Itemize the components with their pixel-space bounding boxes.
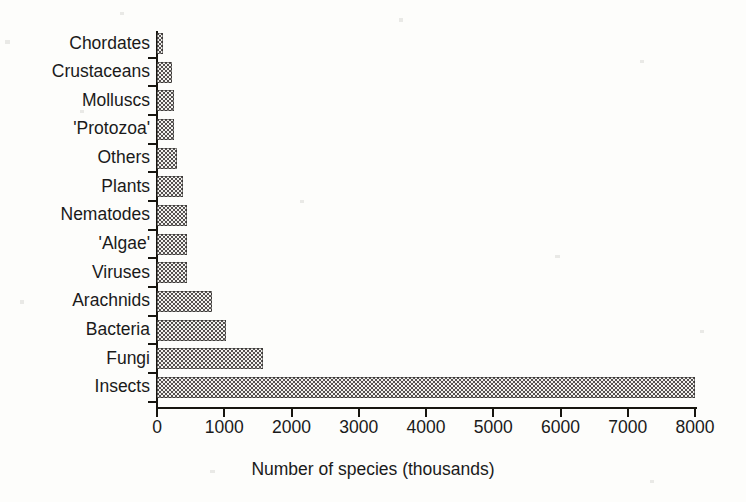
bar xyxy=(157,90,174,111)
x-axis-tick xyxy=(223,409,225,417)
y-axis-tick xyxy=(148,315,157,317)
x-axis-tick xyxy=(291,409,293,417)
category-label: Fungi xyxy=(0,350,150,368)
x-axis-tick xyxy=(156,409,158,417)
bar xyxy=(157,262,187,283)
bar xyxy=(157,205,187,226)
x-axis-tick-label: 1000 xyxy=(205,419,244,437)
category-label: Arachnids xyxy=(0,292,150,310)
bar xyxy=(157,320,226,341)
y-axis-tick xyxy=(148,343,157,345)
bar xyxy=(157,33,163,54)
y-axis-tick xyxy=(148,85,157,87)
category-label: 'Protozoa' xyxy=(0,120,150,138)
category-label: Viruses xyxy=(0,264,150,282)
x-axis-tick xyxy=(627,409,629,417)
category-label: Others xyxy=(0,149,150,167)
chart-page: ChordatesCrustaceansMolluscs'Protozoa'Ot… xyxy=(0,0,746,502)
bar-chart-plot-area: ChordatesCrustaceansMolluscs'Protozoa'Ot… xyxy=(0,0,746,502)
y-axis-tick xyxy=(148,401,157,403)
category-label: Insects xyxy=(0,378,150,396)
x-axis-tick-label: 2000 xyxy=(272,419,311,437)
bar xyxy=(157,148,177,169)
x-axis-tick xyxy=(560,409,562,417)
category-label: Nematodes xyxy=(0,206,150,224)
x-axis-tick xyxy=(358,409,360,417)
bar xyxy=(157,234,187,255)
x-axis-tick xyxy=(492,409,494,417)
x-axis-tick-label: 0 xyxy=(152,419,162,437)
y-axis-tick xyxy=(148,114,157,116)
x-axis-tick-label: 4000 xyxy=(407,419,446,437)
bar xyxy=(157,291,212,312)
bar xyxy=(157,377,695,398)
x-axis-tick xyxy=(694,409,696,417)
y-axis-tick xyxy=(148,57,157,59)
x-axis-tick-label: 7000 xyxy=(608,419,647,437)
x-axis-tick-label: 3000 xyxy=(339,419,378,437)
category-label: Molluscs xyxy=(0,92,150,110)
y-axis-tick xyxy=(148,229,157,231)
category-label: Plants xyxy=(0,178,150,196)
x-axis-tick-label: 5000 xyxy=(474,419,513,437)
y-axis-tick xyxy=(148,143,157,145)
y-axis-tick xyxy=(148,257,157,259)
bar xyxy=(157,62,172,83)
x-axis-title: Number of species (thousands) xyxy=(0,461,746,479)
category-label: Crustaceans xyxy=(0,63,150,81)
x-axis-tick-label: 8000 xyxy=(676,419,715,437)
y-axis-tick xyxy=(148,286,157,288)
category-label: 'Algae' xyxy=(0,235,150,253)
category-label: Chordates xyxy=(0,35,150,53)
y-axis-tick xyxy=(148,372,157,374)
bar xyxy=(157,176,183,197)
category-label: Bacteria xyxy=(0,321,150,339)
x-axis-tick xyxy=(425,409,427,417)
x-axis-tick-label: 6000 xyxy=(541,419,580,437)
y-axis-tick xyxy=(148,171,157,173)
bar xyxy=(157,348,263,369)
y-axis-tick xyxy=(148,200,157,202)
bar xyxy=(157,119,174,140)
